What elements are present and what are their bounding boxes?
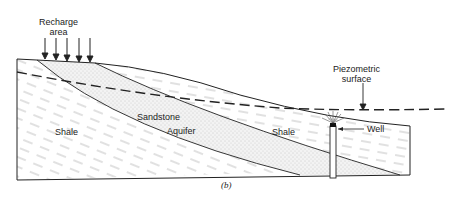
figure-caption: (b) [221, 180, 232, 190]
recharge-area-label: Recharge area [39, 17, 78, 37]
shale-left-label: Shale [55, 127, 78, 137]
well-label: Well [367, 124, 384, 134]
piezo-label-line2: surface [333, 74, 380, 84]
artesian-aquifer-diagram: Recharge area Piezometric surface Shale … [0, 0, 458, 205]
shale-right-label: Shale [272, 127, 295, 137]
piezometric-surface-label: Piezometric surface [333, 64, 380, 84]
recharge-label-line2: area [39, 27, 78, 37]
sandstone-label: Sandstone [137, 112, 180, 122]
recharge-label-line1: Recharge [39, 17, 78, 27]
recharge-arrows [42, 38, 93, 62]
piezometric-arrow [360, 83, 366, 110]
piezo-label-line1: Piezometric [333, 64, 380, 74]
aquifer-label: Aquifer [167, 126, 196, 136]
